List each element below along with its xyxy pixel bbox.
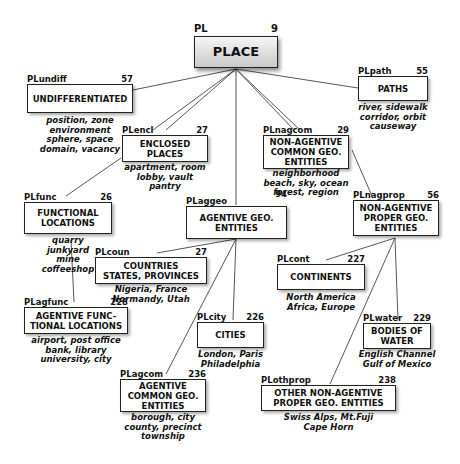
node-count: 57	[121, 74, 133, 84]
node-count: 55	[416, 66, 428, 76]
node-count: 229	[413, 313, 431, 323]
node-count: 94	[275, 189, 287, 199]
node-code: PLcont	[277, 254, 310, 264]
node-code: PLcity	[197, 312, 226, 322]
node-code: PLfunc	[24, 192, 57, 202]
node-count: 226	[246, 312, 264, 322]
node-code: PL	[194, 24, 208, 34]
node-place: PL9 PLACE	[194, 26, 278, 70]
node-code: PLothprop	[261, 375, 311, 385]
node-label: ENCLOSED PLACES	[122, 135, 208, 162]
node-examples: apartment, room lobby, vault pantry	[107, 163, 223, 192]
node-count: 27	[196, 125, 208, 135]
node-examples: London, Paris Philadelphia	[182, 350, 279, 369]
node-count: 29	[337, 125, 349, 135]
node-code: PLagcom	[120, 369, 163, 379]
node-code: PLwater	[363, 313, 402, 323]
node-code: PLencl	[122, 125, 153, 135]
node-label: AGENTIVE GEO. ENTITIES	[186, 206, 287, 239]
node-examples: English Channel Gulf of Mexico	[348, 350, 446, 369]
node-code: PLagfunc	[24, 297, 68, 307]
node-code: PLaggeo	[186, 196, 227, 206]
node-examples: neighborhood beach, sky, ocean forest, r…	[248, 169, 364, 198]
node-examples: North America Africa, Europe	[262, 293, 380, 312]
node-count: 56	[427, 190, 439, 200]
node-examples: river, sidewalk corridor, orbit causeway	[343, 103, 443, 132]
node-label: NON-AGENTIVE COMMON GEO. ENTITIES	[263, 135, 349, 169]
node-count: 236	[188, 369, 206, 379]
node-label: UNDIFFERENTIATED	[27, 84, 133, 113]
node-label: AGENTIVE FUNC- TIONAL LOCATIONS	[24, 307, 128, 334]
node-count: 9	[271, 24, 278, 34]
node-count: 238	[378, 375, 396, 385]
node-label: CONTINENTS	[277, 264, 365, 290]
node-label: AGENTIVE COMMON GEO. ENTITIES	[120, 379, 206, 412]
node-label: BODIES OF WATER	[363, 323, 431, 349]
node-label: PATHS	[358, 76, 428, 101]
node-label: PLACE	[194, 36, 278, 68]
node-code: PLundiff	[27, 74, 67, 84]
node-code: PLpath	[358, 66, 392, 76]
node-count: 27	[195, 247, 207, 257]
node-code: PLnagprop	[353, 190, 405, 200]
node-label: NON-AGENTIVE PROPER GEO. ENTITIES	[353, 200, 439, 236]
node-examples: airport, post office bank, library unive…	[9, 336, 143, 365]
node-count: 228	[110, 297, 128, 307]
node-label: FUNCTIONAL LOCATIONS	[24, 202, 112, 234]
node-count: 227	[347, 254, 365, 264]
node-label: COUNTRIES STATES, PROVINCES	[95, 257, 207, 284]
node-label: CITIES	[197, 322, 264, 348]
node-code: PLcoun	[95, 247, 130, 257]
node-examples: borough, city county, precinct township	[105, 413, 221, 442]
node-count: 26	[100, 192, 112, 202]
node-code: PLnagcom	[263, 125, 312, 135]
node-label: OTHER NON-AGENTIVE PROPER GEO. ENTITIES	[261, 385, 396, 411]
node-examples: Swiss Alps, Mt.Fuji Cape Horn	[246, 413, 411, 432]
